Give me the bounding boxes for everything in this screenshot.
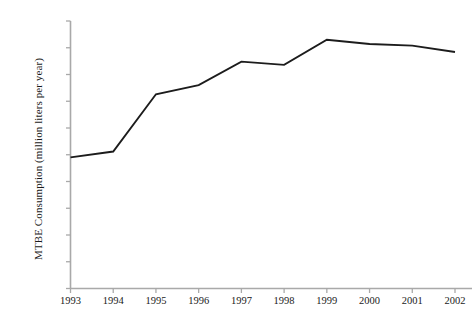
x-axis-tick-label: 1994 <box>93 295 133 306</box>
x-axis-tick-label: 1996 <box>179 295 219 306</box>
x-axis-tick-label: 1999 <box>307 295 347 306</box>
x-axis-tick-label: 2000 <box>350 295 390 306</box>
chart-container: 0500010000150002000025000300003500040000… <box>0 0 476 318</box>
x-axis-tick-label: 1993 <box>51 295 91 306</box>
x-axis-tick-label: 1998 <box>264 295 304 306</box>
x-axis-tick-labels: 1993199419951996199719981999200020012002 <box>0 0 476 318</box>
y-axis-title: MTBE Consumption (million liters per yea… <box>32 0 52 318</box>
x-axis-tick-label: 2001 <box>392 295 432 306</box>
x-axis-tick-label: 2002 <box>435 295 475 306</box>
x-axis-tick-label: 1997 <box>221 295 261 306</box>
x-axis-tick-label: 1995 <box>136 295 176 306</box>
